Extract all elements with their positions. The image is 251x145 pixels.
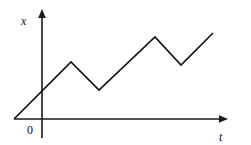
displacement-curve (14, 33, 213, 119)
y-axis-label: x (21, 15, 26, 27)
x-axis-label: t (219, 131, 222, 143)
origin-label: 0 (27, 124, 33, 136)
figure-container: x t 0 (0, 0, 251, 145)
y-axis-arrow-up-icon (38, 9, 46, 18)
x-axis-arrow-right-icon (219, 115, 228, 123)
graph-canvas (0, 0, 251, 145)
